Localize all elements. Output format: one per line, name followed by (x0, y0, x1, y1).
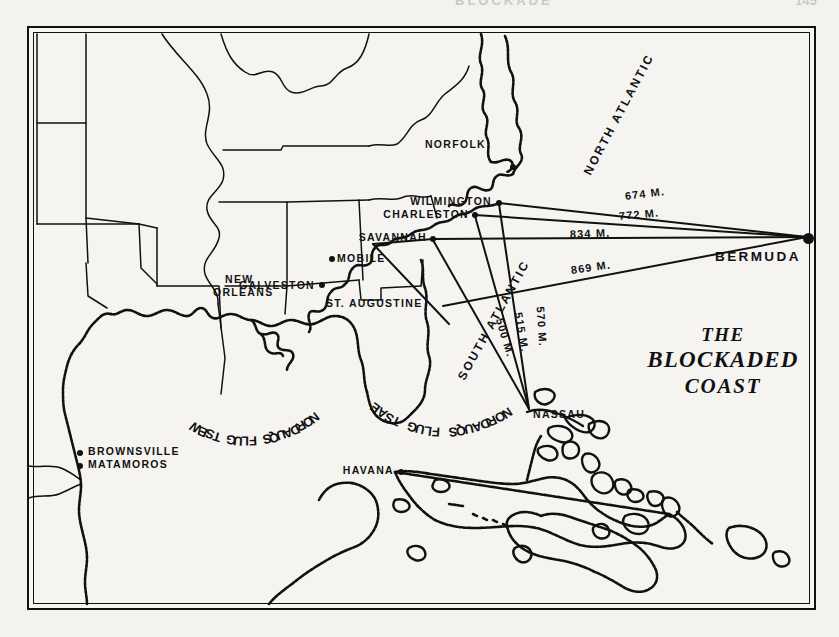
map-title-line-1: THE (633, 324, 813, 346)
ray-savannah-bermuda (433, 237, 807, 239)
inland-rivers (29, 466, 81, 498)
city-dot-charleston (472, 212, 478, 218)
scanned-page: BLOCKADE 145 .coast{fill:none;stroke:#11… (0, 0, 839, 637)
city-label-wilmington: WILMINGTON (410, 196, 492, 207)
squadron-label-west-gulf: WESTGULFSQUADRON (119, 343, 369, 453)
map-frame: .coast{fill:none;stroke:#111;stroke-widt… (27, 26, 816, 610)
city-dot-matamoros (77, 463, 83, 469)
city-label-galveston: GALVESTON (239, 280, 315, 291)
squadron-label-letter: F (248, 434, 257, 447)
page-running-head: BLOCKADE 145 (0, 0, 839, 11)
map-artwork: .coast{fill:none;stroke:#111;stroke-widt… (29, 28, 814, 608)
city-label-mobile: MOBILE (337, 253, 386, 264)
city-label-norfolk: NORFOLK (425, 139, 486, 150)
city-label-charleston: CHARLESTON (383, 209, 469, 220)
city-dot-brownsville (77, 450, 83, 456)
city-label-savannah: SAVANNAH (359, 232, 427, 243)
distance-label-834: 834 M. (570, 228, 611, 240)
squadron-label-letter: F (432, 425, 441, 439)
city-dot-wilmington (496, 200, 502, 206)
city-dot-galveston (319, 282, 325, 288)
squadron-label-east-gulf: EASTGULFSQUADRON (339, 338, 549, 448)
city-dot-havana (398, 469, 404, 475)
city-dot-bermuda (803, 233, 814, 244)
city-label-bermuda: BERMUDA (715, 250, 801, 264)
distance-label-570: 570 M. (535, 306, 549, 347)
city-dot-norfolk (510, 164, 516, 170)
city-label-havana: HAVANA (343, 465, 394, 476)
map-title-line-3: COAST (633, 374, 813, 399)
map-title: THE BLOCKADED COAST (633, 324, 813, 398)
map-title-line-2: BLOCKADED (633, 346, 813, 373)
city-label-matamoros: MATAMOROS (88, 459, 168, 470)
coastline (63, 34, 522, 604)
city-label-st-augustine: ST. AUGUSTINE (326, 298, 422, 309)
running-head-folio: 145 (795, 0, 817, 8)
city-dot-savannah (430, 236, 436, 242)
city-dot-mobile (329, 256, 335, 262)
running-head-title: BLOCKADE (455, 0, 553, 8)
